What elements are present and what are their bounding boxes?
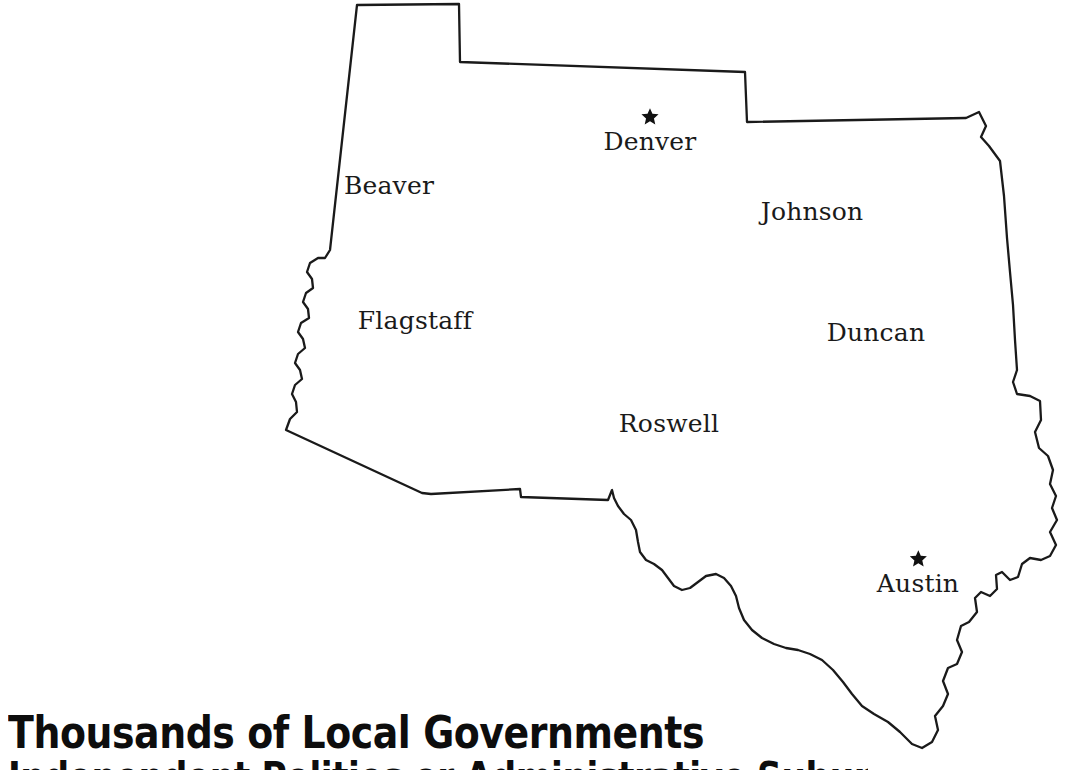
city-label-duncan: Duncan xyxy=(827,318,925,347)
city-label-roswell: Roswell xyxy=(619,409,719,438)
city-marker-denver[interactable]: Denver xyxy=(603,107,696,156)
map-outline-svg xyxy=(0,0,1075,770)
page-subtitle: Independent Polities or Administrative S… xyxy=(8,756,868,770)
city-marker-roswell[interactable]: Roswell xyxy=(619,408,719,438)
page-root: Denver Beaver Johnson Flagstaff Duncan xyxy=(0,0,1075,770)
page-title: Thousands of Local Governments xyxy=(8,710,868,756)
star-icon xyxy=(603,107,696,126)
city-marker-beaver[interactable]: Beaver xyxy=(344,170,434,200)
star-icon xyxy=(877,549,959,568)
title-block: Thousands of Local Governments Independe… xyxy=(8,710,1008,770)
city-marker-austin[interactable]: Austin xyxy=(877,549,959,598)
city-label-austin: Austin xyxy=(877,569,959,598)
city-label-denver: Denver xyxy=(603,127,696,156)
map-figure: Denver Beaver Johnson Flagstaff Duncan xyxy=(0,0,1075,770)
city-label-beaver: Beaver xyxy=(344,171,434,200)
city-label-flagstaff: Flagstaff xyxy=(358,306,472,335)
city-marker-duncan[interactable]: Duncan xyxy=(827,317,925,347)
city-marker-flagstaff[interactable]: Flagstaff xyxy=(358,305,472,335)
city-label-johnson: Johnson xyxy=(761,197,864,226)
city-marker-johnson[interactable]: Johnson xyxy=(761,196,864,226)
